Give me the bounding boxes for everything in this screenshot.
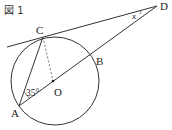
circle-o bbox=[11, 37, 99, 125]
label-a: A bbox=[11, 107, 19, 119]
label-d: D bbox=[160, 0, 168, 12]
center-point-o bbox=[52, 80, 55, 83]
angle-arc-d bbox=[140, 11, 141, 14]
line-ad bbox=[19, 6, 157, 106]
angle-label-35: 35° bbox=[26, 88, 40, 98]
label-o: O bbox=[54, 86, 62, 98]
angle-label-x: x bbox=[131, 11, 136, 21]
figure-title: 図 1 bbox=[4, 5, 24, 16]
radius-oc-dashed bbox=[43, 37, 53, 81]
label-c: C bbox=[36, 24, 43, 36]
label-b: B bbox=[96, 55, 103, 67]
geometry-figure: 図 1 C D B O A 35° x bbox=[0, 0, 172, 130]
